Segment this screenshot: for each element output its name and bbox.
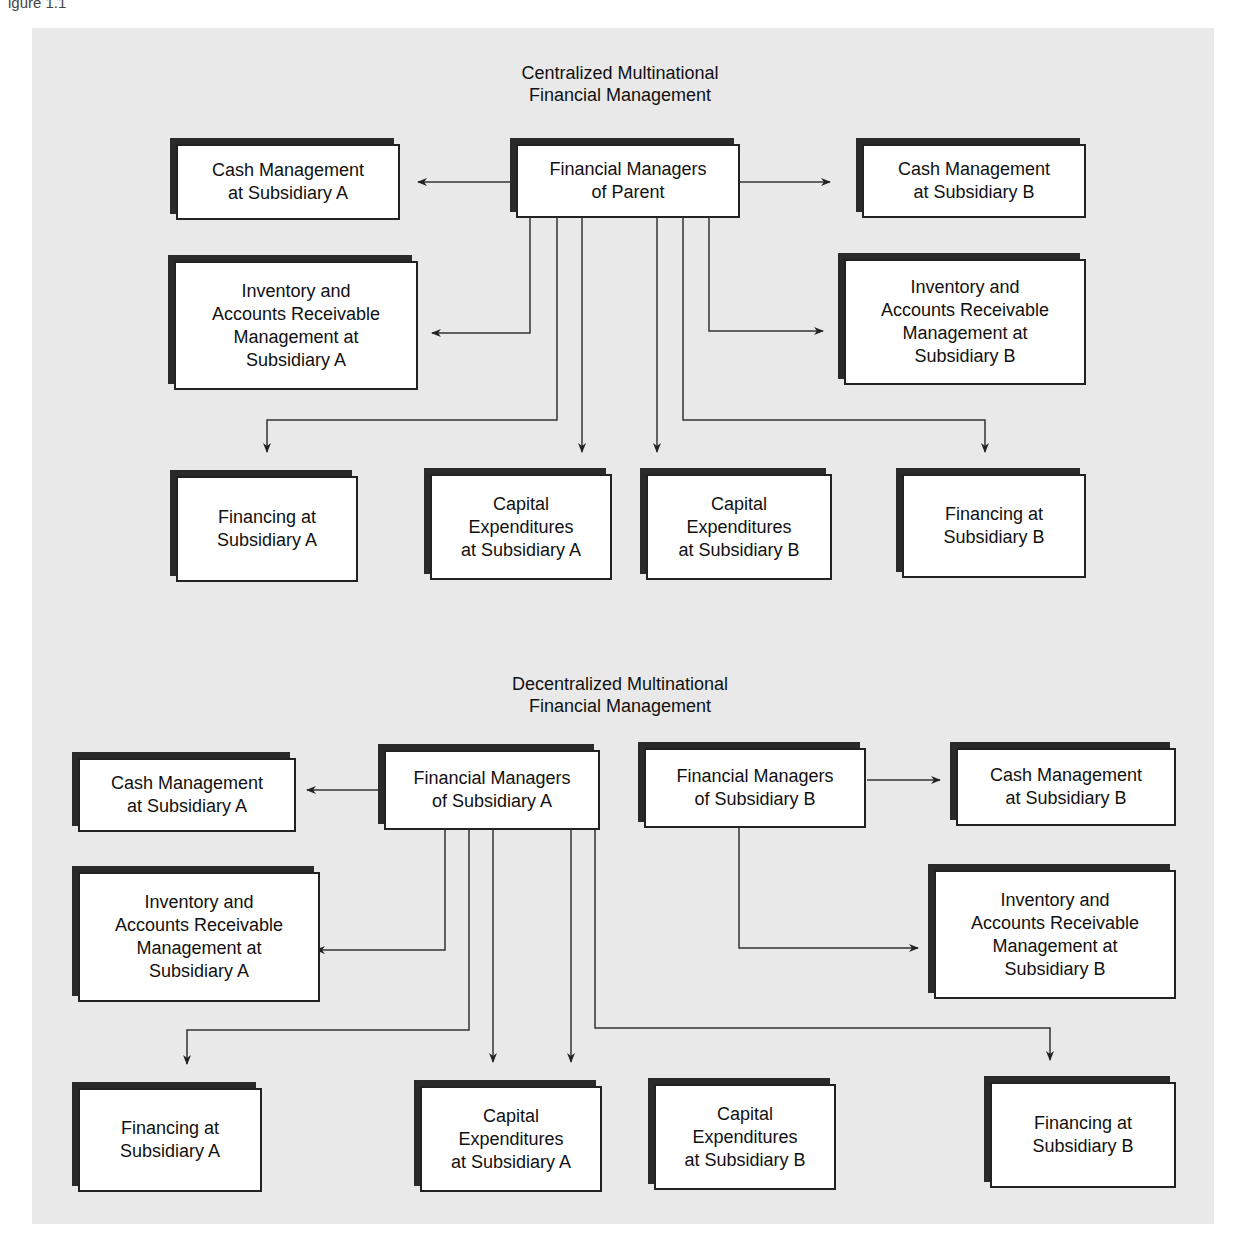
box-financial-managers-sub-b: Financial Managers of Subsidiary B xyxy=(638,742,866,828)
box-cash-management-b: Cash Management at Subsidiary B xyxy=(856,138,1086,218)
box-financing-a: Financing at Subsidiary A xyxy=(170,470,358,582)
box-inventory-ar-b-decentral: Inventory and Accounts Receivable Manage… xyxy=(928,864,1176,999)
box-inventory-ar-a-decentral: Inventory and Accounts Receivable Manage… xyxy=(72,866,320,1002)
box-financing-b-decentral: Financing at Subsidiary B xyxy=(984,1076,1176,1188)
box-capital-expenditures-b: Capital Expenditures at Subsidiary B xyxy=(640,468,832,580)
box-financial-managers-sub-a: Financial Managers of Subsidiary A xyxy=(378,744,600,830)
box-capital-expenditures-a-decentral: Capital Expenditures at Subsidiary A xyxy=(414,1080,602,1192)
box-cash-management-a: Cash Management at Subsidiary A xyxy=(170,138,400,220)
box-cash-management-b-decentral: Cash Management at Subsidiary B xyxy=(950,742,1176,826)
decentralized-title: Decentralized Multinational Financial Ma… xyxy=(450,673,790,717)
box-financing-b: Financing at Subsidiary B xyxy=(896,468,1086,578)
box-inventory-ar-a: Inventory and Accounts Receivable Manage… xyxy=(168,255,418,390)
centralized-title: Centralized Multinational Financial Mana… xyxy=(450,62,790,106)
box-financing-a-decentral: Financing at Subsidiary A xyxy=(72,1082,262,1192)
box-capital-expenditures-b-decentral: Capital Expenditures at Subsidiary B xyxy=(648,1078,836,1190)
box-financial-managers-parent: Financial Managers of Parent xyxy=(510,138,740,218)
box-inventory-ar-b: Inventory and Accounts Receivable Manage… xyxy=(838,253,1086,385)
box-cash-management-a-decentral: Cash Management at Subsidiary A xyxy=(72,752,296,832)
box-capital-expenditures-a: Capital Expenditures at Subsidiary A xyxy=(424,468,612,580)
